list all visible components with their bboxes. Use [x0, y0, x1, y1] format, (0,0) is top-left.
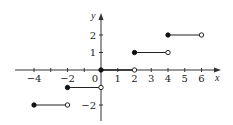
x-tick-label: 2 [131, 73, 137, 84]
x-tick-label: −2 [60, 73, 75, 84]
y-tick-label: 2 [90, 30, 96, 41]
x-tick-label: 5 [182, 73, 188, 84]
open-endpoint-icon [132, 68, 136, 72]
tick-labels: xy−4−2012345621−2 [27, 10, 220, 111]
x-tick-label: 4 [165, 73, 171, 84]
closed-endpoint-icon [132, 50, 136, 54]
x-tick-label: 3 [148, 73, 154, 84]
closed-endpoint-icon [65, 85, 69, 89]
step-function-chart: xy−4−2012345621−2 [0, 0, 233, 125]
x-tick-label: 6 [198, 73, 204, 84]
y-axis-label: y [90, 10, 96, 21]
open-endpoint-icon [166, 50, 170, 54]
closed-endpoint-icon [166, 33, 170, 37]
x-tick-label: 0 [92, 73, 98, 84]
closed-endpoint-icon [32, 103, 36, 107]
closed-endpoint-icon [99, 68, 103, 72]
x-tick-label: 1 [115, 73, 121, 84]
open-endpoint-icon [99, 85, 103, 89]
y-axis-arrow-icon [99, 13, 104, 20]
open-endpoint-icon [65, 103, 69, 107]
x-tick-label: −4 [27, 73, 42, 84]
open-endpoint-icon [199, 33, 203, 37]
y-tick-label: 1 [90, 47, 96, 58]
x-axis-label: x [214, 72, 220, 83]
y-tick-label: −2 [81, 100, 96, 111]
